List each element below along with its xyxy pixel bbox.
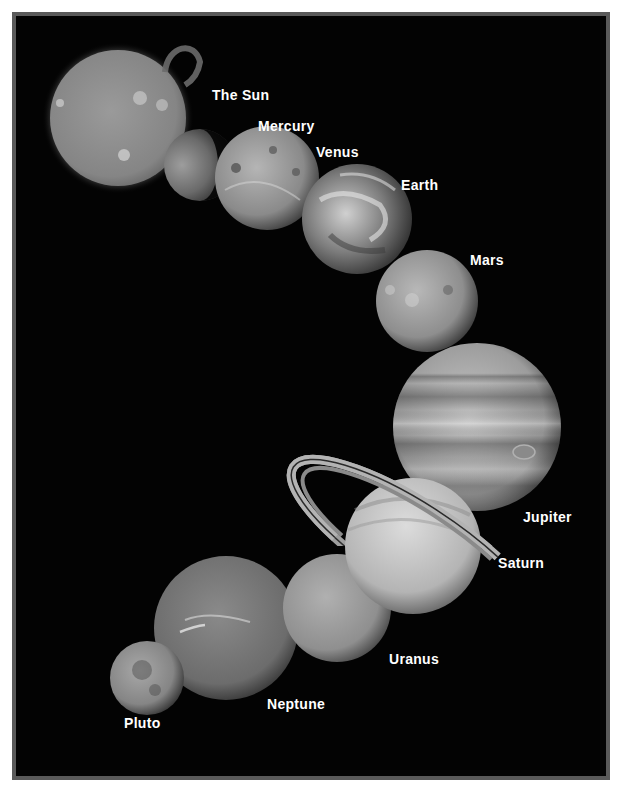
earth-body: [302, 164, 412, 274]
label-earth: Earth: [401, 178, 438, 192]
label-mercury: Mercury: [258, 119, 315, 133]
label-uranus: Uranus: [389, 652, 439, 666]
label-mars: Mars: [470, 253, 504, 267]
label-saturn: Saturn: [498, 556, 544, 570]
label-jupiter: Jupiter: [523, 510, 572, 524]
label-sun: The Sun: [212, 88, 269, 102]
pluto-body: [110, 641, 184, 715]
mars-body: [376, 250, 478, 352]
label-pluto: Pluto: [124, 716, 161, 730]
label-neptune: Neptune: [267, 697, 325, 711]
label-venus: Venus: [316, 145, 359, 159]
